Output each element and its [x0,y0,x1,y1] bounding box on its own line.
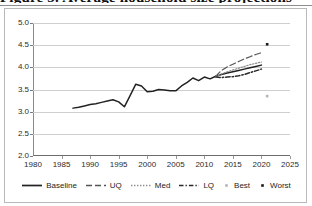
y-axis-tick-label: 4.0 [7,63,29,71]
legend-item-best[interactable]: Best [223,181,250,190]
x-axis-tick-mark [290,156,291,159]
y-axis-tick-label: 3.5 [7,86,29,94]
legend-label: Baseline [46,181,77,190]
solid-line-icon [22,182,42,189]
legend-label: Best [234,181,250,190]
y-axis-tick-label: 3.0 [7,108,29,116]
data-point-marker-worst [266,43,269,46]
y-axis-tick-mark [30,156,33,157]
x-axis-tick-mark [233,156,234,159]
figure-frame: 2.02.53.03.54.04.55.0 198019851990199520… [4,8,307,203]
series-line-uq [216,53,262,76]
chart-screenshot: Figure 3. Average household size project… [0,0,312,206]
y-axis-tick-label: 2.0 [7,152,29,160]
x-axis-tick-mark [62,156,63,159]
legend-item-worst[interactable]: Worst [259,181,291,190]
x-axis-tick-mark [90,156,91,159]
y-axis-tick-label: 5.0 [7,19,29,27]
data-point-marker-best [266,95,269,98]
x-axis-tick-mark [147,156,148,159]
legend-label: Med [155,181,171,190]
series-line-baseline [73,65,261,108]
legend-label: LQ [203,181,214,190]
x-axis-tick-label: 2025 [273,160,307,169]
y-axis-tick-label: 4.5 [7,41,29,49]
legend-label: Worst [270,181,291,190]
legend-label: UQ [110,181,122,190]
x-axis-tick-mark [176,156,177,159]
dotted-line-icon [131,182,151,189]
page-title: Figure 3. Average household size project… [0,0,312,3]
x-axis-tick-mark [119,156,120,159]
dashed-line-icon [86,182,106,189]
dot-marker-icon [259,182,266,189]
plot-area: 2.02.53.03.54.04.55.0 198019851990199520… [33,23,290,156]
chart-legend: BaselineUQMedLQBestWorst [15,177,298,193]
legend-item-med[interactable]: Med [131,181,171,190]
dashdot-line-icon [179,182,199,189]
dot-marker-icon [223,182,230,189]
data-series-layer [33,23,290,156]
x-axis-tick-mark [204,156,205,159]
x-axis-tick-mark [261,156,262,159]
legend-item-lq[interactable]: LQ [179,181,214,190]
title-divider [0,5,312,6]
y-axis-tick-label: 2.5 [7,130,29,138]
legend-item-baseline[interactable]: Baseline [22,181,77,190]
legend-item-uq[interactable]: UQ [86,181,122,190]
